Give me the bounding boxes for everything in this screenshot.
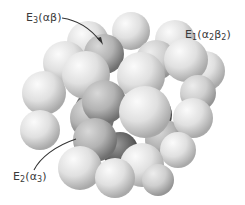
e2-enzyme: E bbox=[13, 170, 20, 183]
e3-enzyme: E bbox=[26, 11, 33, 24]
label-e2: E2(α3) bbox=[13, 171, 47, 184]
e2-comp-close: ) bbox=[42, 170, 46, 183]
label-e3: E3(αβ) bbox=[26, 12, 62, 25]
e2-comp-alpha: (α bbox=[25, 170, 37, 183]
e1-enzyme: E bbox=[185, 28, 192, 41]
e3-composition: (αβ) bbox=[38, 11, 61, 24]
e1-comp-alpha: (α bbox=[197, 28, 209, 41]
e1-comp-close: ) bbox=[227, 28, 231, 41]
label-e1: E1(α2β2) bbox=[185, 29, 231, 42]
